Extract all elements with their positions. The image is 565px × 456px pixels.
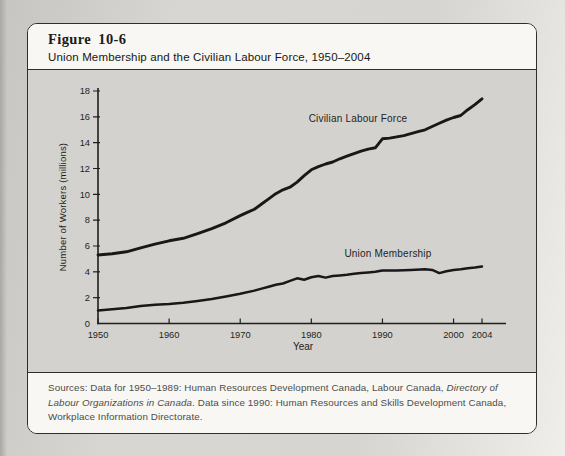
svg-text:14: 14 (80, 138, 90, 148)
svg-text:1970: 1970 (230, 330, 251, 340)
svg-text:0: 0 (85, 319, 90, 329)
svg-text:2004: 2004 (472, 330, 493, 340)
y-axis-label: Number of Workers (millions) (57, 143, 68, 271)
svg-text:10: 10 (80, 190, 90, 200)
svg-text:4: 4 (85, 267, 90, 277)
x-axis-label: Year (293, 341, 313, 352)
svg-text:8: 8 (85, 215, 90, 225)
figure-label: Figure 10-6 (48, 31, 520, 48)
svg-text:6: 6 (85, 241, 90, 251)
svg-text:2000: 2000 (443, 330, 464, 340)
svg-text:12: 12 (80, 164, 90, 174)
chart-panel: 0246810121416181950196019701980199020002… (28, 70, 536, 372)
figure-header: Figure 10-6 Union Membership and the Civ… (28, 24, 536, 70)
svg-text:2: 2 (85, 293, 90, 303)
svg-text:1980: 1980 (301, 330, 322, 340)
sources-panel: Sources: Data for 1950–1989: Human Resou… (28, 372, 536, 433)
svg-text:1960: 1960 (159, 330, 180, 340)
figure-box: Figure 10-6 Union Membership and the Civ… (27, 23, 537, 434)
svg-text:1950: 1950 (88, 330, 109, 340)
svg-text:16: 16 (80, 112, 90, 122)
svg-text:18: 18 (80, 86, 90, 96)
svg-text:1990: 1990 (372, 330, 393, 340)
series-label-civilian-labour-force: Civilian Labour Force (309, 113, 408, 124)
sources-text-part1: Sources: Data for 1950–1989: Human Resou… (48, 382, 446, 393)
sources-text: Sources: Data for 1950–1989: Human Resou… (48, 381, 510, 425)
page-edge-shadow (0, 0, 7, 456)
series-label-union-membership: Union Membership (344, 248, 431, 259)
figure-title: Union Membership and the Civilian Labour… (48, 51, 520, 63)
chart-canvas: 0246810121416181950196019701980199020002… (28, 70, 535, 370)
